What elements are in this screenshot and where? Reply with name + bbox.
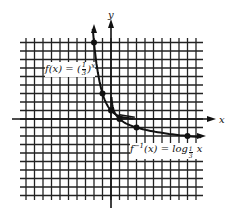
inverse-arrow-icon	[197, 133, 206, 139]
data-point	[100, 91, 106, 97]
x-axis-label: x	[219, 115, 225, 125]
x-axis-arrow-icon	[207, 116, 216, 122]
y-axis-label: y	[108, 10, 114, 20]
data-point	[91, 40, 97, 46]
data-point	[185, 133, 191, 139]
function-arrow-icon	[91, 24, 97, 33]
function-label: f(x) = (13)x	[45, 62, 95, 77]
graph-canvas	[0, 0, 237, 215]
y-axis-arrow-icon	[108, 19, 114, 28]
data-point	[108, 108, 114, 114]
data-point	[134, 125, 140, 131]
data-point	[117, 116, 123, 122]
inverse-function-label: f−1(x) = log13 x	[130, 143, 203, 159]
